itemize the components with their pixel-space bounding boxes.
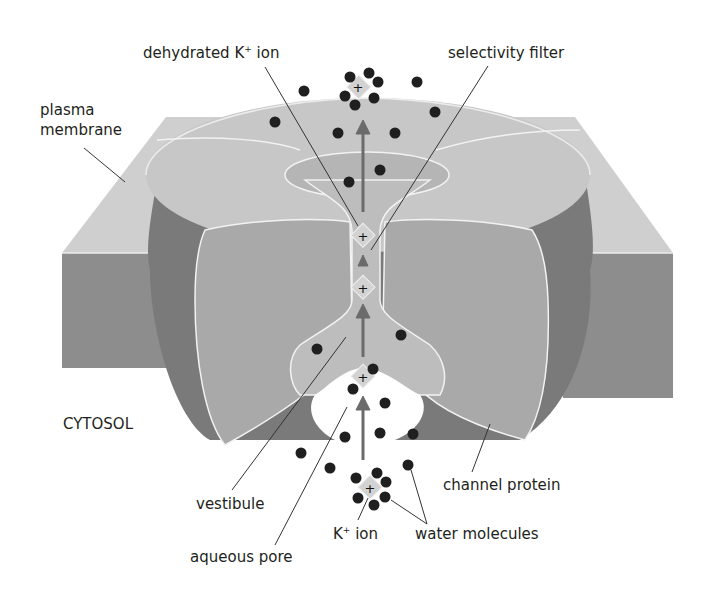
leader-water-1 <box>411 470 427 524</box>
svg-text:+: + <box>358 370 369 385</box>
label-selectivity-filter: selectivity filter <box>448 44 564 62</box>
svg-text:+: + <box>365 481 376 496</box>
label-k-ion: K+ ion <box>333 525 378 543</box>
label-channel-protein: channel protein <box>443 476 560 494</box>
svg-text:+: + <box>358 229 369 244</box>
svg-text:+: + <box>353 80 364 95</box>
label-plasma-membrane: plasma membrane <box>40 100 122 140</box>
label-plasma-membrane-line1: plasma <box>40 100 122 120</box>
svg-text:+: + <box>358 281 369 296</box>
label-plasma-membrane-line2: membrane <box>40 120 122 140</box>
label-aqueous-pore: aqueous pore <box>190 548 292 566</box>
label-vestibule: vestibule <box>196 495 264 513</box>
label-dehydrated-ion: dehydrated K+ ion <box>143 44 279 62</box>
leader-water-2 <box>391 500 427 524</box>
leader-plasma-membrane <box>84 148 125 182</box>
k-channel-diagram: + + + + + <box>0 0 715 598</box>
label-cytosol: CYTOSOL <box>63 415 133 433</box>
label-water-molecules: water molecules <box>415 525 539 543</box>
